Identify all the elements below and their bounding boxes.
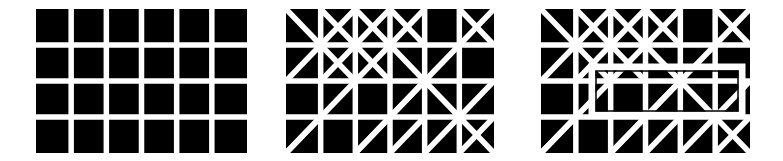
diagonal-grid-with-rectangle-figure bbox=[0, 0, 783, 161]
diagonal-grid-with-rectangle-panel bbox=[0, 0, 783, 161]
